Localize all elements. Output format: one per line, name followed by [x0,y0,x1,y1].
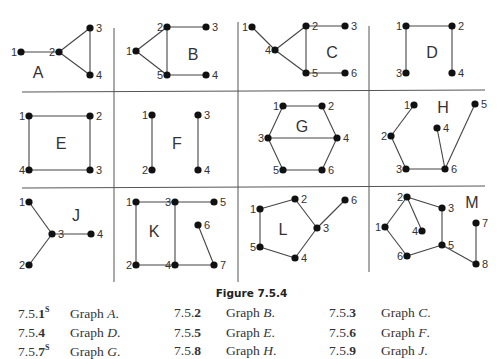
exercise-text: Graph A. [70,306,119,321]
exercise-text: Graph D. [70,325,120,340]
vertex-label: 1 [19,196,25,208]
vertex [418,227,425,234]
vertex [163,23,170,30]
vertex-label: 2 [301,193,307,205]
vertex-label: 2 [328,100,334,112]
vertex [256,243,263,250]
vertex-label: 2 [96,110,102,122]
exercise-text: Graph B. [226,305,275,320]
vertex [279,102,286,109]
graph-k: 1234567K [126,196,226,271]
vertex [402,165,409,172]
edge [260,247,295,258]
vertex-label: 4 [343,132,349,144]
exercise-item: 7.5.2Graph B. [174,305,275,321]
exercise-number: 7.5.8 [174,343,226,359]
vertex [472,260,479,267]
vertex-label: 2 [397,191,403,203]
vertex [55,48,62,55]
vertex-label: 1 [11,46,17,58]
vertex [256,205,263,212]
graph-name-label: F [172,135,182,152]
vertex-label: 3 [96,22,102,34]
vertex-label: 5 [220,196,226,208]
figure-7-5-4: 1234A12345B123456C1234D1234E1234F123456G… [0,0,503,290]
vertex [210,261,217,268]
vertex [86,112,93,119]
edge [385,197,407,227]
vertex-label: 1 [142,109,148,121]
graph-g: 123456G [258,100,349,176]
graph-m: 12345678M [375,191,488,270]
graph-name-label: J [72,207,80,224]
vertex [381,223,388,230]
graph-name-label: E [56,135,67,152]
vertex-label: 5 [157,69,163,81]
vertex [403,193,410,200]
vertex-label: 1 [396,20,402,32]
vertex [17,48,24,55]
graph-name-label: D [426,44,438,61]
vertex [194,111,201,118]
vertex [148,166,155,173]
vertex-label: 7 [482,217,488,229]
exercise-item: 7.5.8Graph H. [174,343,276,359]
graph-h: 123456H [381,98,487,175]
vertex [87,230,94,237]
vertex-label: 5 [481,98,487,110]
vertex-label: 2 [142,164,148,176]
vertex-label: 2 [49,46,55,58]
vertex-label: 2 [381,130,387,142]
vertex-label: 4 [412,225,418,237]
exercise-text: Graph C. [381,305,431,320]
vertex-label: 4 [265,44,271,56]
exercise-text: Graph E. [226,325,275,340]
vertex [25,198,32,205]
vertex-label: 5 [273,164,279,176]
vertex-label: 3 [396,163,402,175]
edge [385,227,407,256]
vertex-label: 5 [312,67,318,79]
edge [275,50,306,73]
vertex [448,22,455,29]
vertex-label: 3 [58,228,64,240]
edge [317,200,345,228]
vertex [402,22,409,29]
vertex-label: 3 [258,132,264,144]
vertex [194,221,201,228]
vertex [402,69,409,76]
vertex [302,69,309,76]
graph-c: 123456C [242,20,357,79]
exercise-text: Graph G. [70,344,120,359]
vertex-label: 4 [204,164,210,176]
vertex [448,69,455,76]
vertex [302,22,309,29]
exercise-number: 7.5.6 [329,325,381,341]
exercise-number: 7.5.9 [329,343,381,359]
vertex [171,198,178,205]
vertex-label: 3 [165,196,171,208]
graph-name-label: M [465,194,478,211]
graph-d: 1234D [396,20,464,79]
vertex-label: 4 [97,228,103,240]
vertex [341,196,348,203]
exercise-number: 7.5.3 [329,305,381,321]
graph-name-label: G [296,118,308,135]
vertex [25,261,32,268]
vertex-label: 7 [220,259,226,271]
figure-caption: Figure 7.5.4 [0,287,503,299]
vertex [132,198,139,205]
vertex-label: 5 [448,239,454,251]
vertex [291,195,298,202]
vertex-label: 6 [351,67,357,79]
vertex-label: 6 [397,250,403,262]
edge [275,26,306,50]
vertex [410,101,417,108]
vertex-label: 4 [443,122,449,134]
vertex [318,166,325,173]
exercise-number: 7.5.1S [18,305,70,322]
graph-l: 123456L [250,193,357,264]
vertex [271,46,278,53]
graph-e: 1234E [19,110,102,176]
edge [437,128,445,169]
